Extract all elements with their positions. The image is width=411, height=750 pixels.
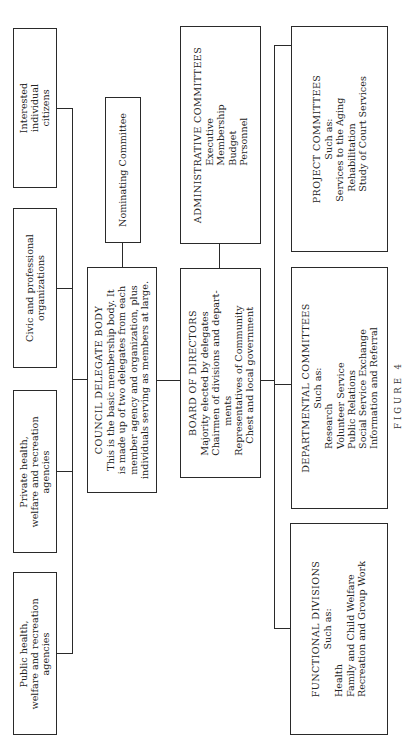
connector-to-project xyxy=(274,45,291,46)
box-functional-divisions-text: FUNCTIONAL DIVISIONS Such as: Health Fam… xyxy=(310,561,367,698)
box-interested-citizens: Interested individual citizens xyxy=(13,28,57,188)
box-council-delegate-body-text: COUNCIL DELEGATE BODY This is the basic … xyxy=(93,281,150,479)
connector-admin-to-board xyxy=(219,244,220,268)
connector-private xyxy=(57,471,73,472)
box-public-health: Public health, welfare and recreation ag… xyxy=(13,572,57,735)
connector-to-departmental xyxy=(274,384,291,385)
connector-right-trunk xyxy=(274,45,275,629)
box-functional-divisions: FUNCTIONAL DIVISIONS Such as: Health Fam… xyxy=(290,523,388,735)
box-civic-professional: Civic and professional organizations xyxy=(13,208,57,368)
connector-to-functional xyxy=(274,628,291,629)
box-private-health: Private health, welfare and recreation a… xyxy=(13,390,57,553)
box-public-health-text: Public health, welfare and recreation ag… xyxy=(18,598,52,709)
box-interested-citizens-text: Interested individual citizens xyxy=(18,83,52,133)
box-civic-professional-text: Civic and professional organizations xyxy=(24,234,46,342)
figure-caption: FIGURE 4 xyxy=(393,361,403,429)
box-private-health-text: Private health, welfare and recreation a… xyxy=(18,416,52,527)
box-nominating-committee: Nominating Committee xyxy=(105,97,141,243)
connector-citizens xyxy=(57,108,73,109)
box-project-committees-text: PROJECT COMMITTEES Such as: Services to … xyxy=(311,75,368,204)
box-departmental-committees-text: DEPARTMENTAL COMMITTEES Such as: Researc… xyxy=(300,303,379,473)
connector-civic xyxy=(57,288,73,289)
connector-council-to-board xyxy=(157,380,180,381)
box-board-of-directors: BOARD OF DIRECTORS Majority elected by d… xyxy=(180,268,261,478)
box-project-committees: PROJECT COMMITTEES Such as: Services to … xyxy=(291,26,388,252)
connector-public xyxy=(57,653,73,654)
box-council-delegate-body: COUNCIL DELEGATE BODY This is the basic … xyxy=(87,267,157,493)
box-administrative-committees-text: ADMINISTRATIVE COMMITTEES Executive Memb… xyxy=(192,47,249,223)
box-departmental-committees: DEPARTMENTAL COMMITTEES Such as: Researc… xyxy=(291,267,388,509)
box-board-of-directors-text: BOARD OF DIRECTORS Majority elected by d… xyxy=(186,290,254,455)
box-nominating-committee-text: Nominating Committee xyxy=(117,113,128,227)
connector-nominating-to-council xyxy=(122,243,123,267)
connector-trunk-to-council xyxy=(72,379,87,380)
connector-left-trunk xyxy=(72,108,73,654)
box-administrative-committees: ADMINISTRATIVE COMMITTEES Executive Memb… xyxy=(180,26,261,244)
connector-board-to-trunk xyxy=(261,380,275,381)
